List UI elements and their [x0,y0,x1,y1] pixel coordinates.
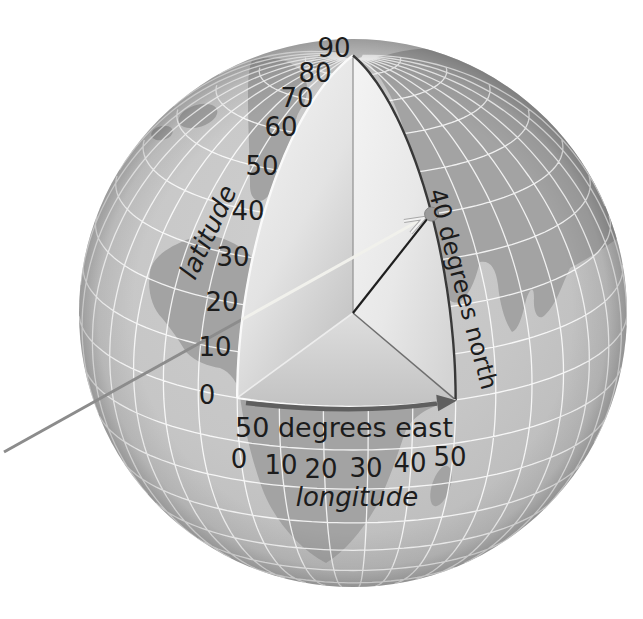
longitude-tick-label: 0 [231,446,248,472]
longitude-axis-label: longitude [296,484,419,510]
latitude-tick-label: 60 [264,114,297,140]
latitude-tick-label: 20 [205,289,238,315]
longitude-tick-label: 50 [433,444,466,470]
latitude-tick-label: 40 [231,198,264,224]
longitude-tick-label: 30 [349,455,382,481]
longitude-tick-label: 20 [304,456,337,482]
latitude-tick-label: 10 [198,334,231,360]
east-arrow-label: 50 degrees east [235,414,453,441]
latitude-tick-label: 0 [199,382,216,408]
longitude-tick-label: 10 [264,452,297,478]
globe-coordinate-diagram: latitude longitude 50 degrees east 40 de… [0,0,643,619]
latitude-tick-label: 30 [216,244,249,270]
longitude-tick-label: 40 [393,450,426,476]
latitude-tick-label: 70 [280,85,313,111]
globe-illustration [0,0,643,619]
latitude-tick-label: 50 [245,153,278,179]
